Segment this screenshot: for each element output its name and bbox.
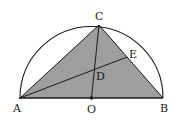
diagram-canvas: C E D A O B [0, 0, 181, 121]
label-o: O [87, 103, 96, 116]
label-a: A [12, 102, 22, 115]
point-a-dot [19, 97, 21, 99]
label-d: D [96, 70, 105, 83]
triangle-abc [20, 25, 163, 98]
label-e: E [129, 48, 137, 61]
center-point-o [90, 96, 94, 100]
label-b: B [160, 102, 168, 115]
label-c: C [95, 10, 103, 23]
geometry-diagram: C E D A O B [0, 0, 181, 121]
